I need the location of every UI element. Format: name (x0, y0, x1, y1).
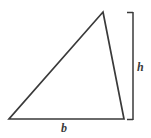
height-label: h (137, 61, 144, 73)
figure-canvas (0, 0, 151, 138)
base-label: b (61, 122, 67, 134)
triangle-shape (9, 12, 124, 119)
height-bracket-icon (127, 12, 133, 120)
geometry-figure: h b (0, 0, 151, 138)
